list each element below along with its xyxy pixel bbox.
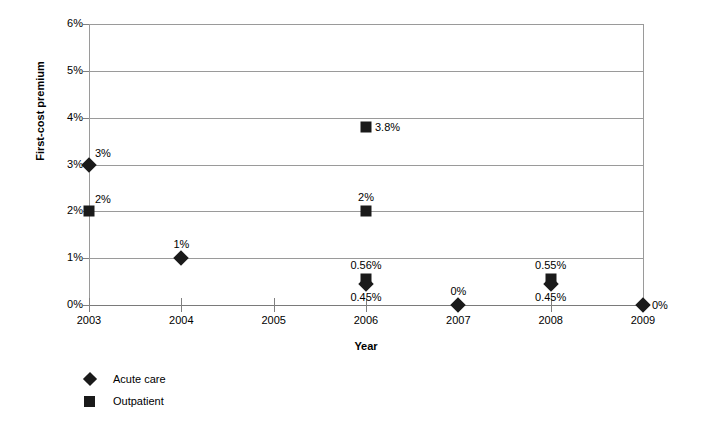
data-point-label: 3.8% — [375, 121, 400, 133]
y-tick-label-wrap: 6% — [43, 18, 83, 29]
x-tick-mark — [181, 298, 182, 312]
gridline — [89, 118, 643, 119]
data-point-label: 0% — [418, 285, 498, 297]
data-point-label: 3% — [95, 147, 111, 159]
y-tick-label: 5% — [49, 65, 83, 76]
diamond-marker-icon — [174, 250, 190, 266]
x-tick-label: 2006 — [336, 314, 396, 326]
y-tick-label: 6% — [49, 18, 83, 29]
gridline — [89, 165, 643, 166]
chart-scatter-first-cost-premium: First-cost premium 6%5%4%3%2%1%0% 200320… — [0, 0, 701, 429]
y-tick-label-wrap: 5% — [43, 65, 83, 76]
plot-right-border — [643, 24, 644, 306]
legend-label: Acute care — [113, 373, 166, 385]
square-marker-icon — [361, 122, 372, 133]
x-tick-label: 2004 — [151, 314, 211, 326]
data-point-label: 0.45% — [326, 291, 406, 303]
gridline — [89, 71, 643, 72]
x-tick-label: 2005 — [244, 314, 304, 326]
data-point-label: 2% — [95, 193, 111, 205]
x-axis-title: Year — [89, 340, 643, 352]
diamond-marker-icon — [451, 297, 467, 313]
y-tick-label: 4% — [49, 112, 83, 123]
data-point-label: 0.55% — [511, 259, 591, 271]
square-marker-icon — [84, 206, 95, 217]
square-marker-icon — [361, 273, 372, 284]
y-tick-label: 2% — [49, 205, 83, 216]
x-tick-label: 2009 — [613, 314, 673, 326]
legend-item[interactable]: Outpatient — [82, 390, 166, 412]
y-tick-label: 1% — [49, 252, 83, 263]
diamond-marker-icon — [635, 297, 651, 313]
data-point-label: 2% — [326, 191, 406, 203]
x-tick-mark — [274, 298, 275, 312]
y-tick-label-wrap: 2% — [43, 205, 83, 216]
y-tick-label: 3% — [49, 159, 83, 170]
square-marker-icon — [84, 396, 95, 407]
legend-swatch — [82, 372, 102, 386]
x-tick-label: 2008 — [521, 314, 581, 326]
legend-item[interactable]: Acute care — [82, 368, 166, 390]
x-tick-label: 2007 — [428, 314, 488, 326]
data-point-label: 0.45% — [511, 291, 591, 303]
chart-legend: Acute careOutpatient — [82, 368, 166, 412]
legend-label: Outpatient — [113, 395, 164, 407]
y-tick-label: 0% — [49, 299, 83, 310]
gridline — [89, 24, 643, 25]
x-tick-label: 2003 — [59, 314, 119, 326]
diamond-marker-icon — [83, 372, 97, 386]
square-marker-icon — [545, 274, 556, 285]
y-tick-label-wrap: 1% — [43, 252, 83, 263]
data-point-label: 0.56% — [326, 259, 406, 271]
y-tick-label-wrap: 0% — [43, 299, 83, 310]
y-tick-label-wrap: 3% — [43, 159, 83, 170]
diamond-marker-icon — [81, 157, 97, 173]
square-marker-icon — [361, 206, 372, 217]
data-point-label: 0% — [652, 299, 668, 311]
y-tick-label-wrap: 4% — [43, 112, 83, 123]
legend-swatch — [82, 394, 102, 408]
x-tick-mark — [89, 298, 90, 312]
data-point-label: 1% — [141, 238, 221, 250]
